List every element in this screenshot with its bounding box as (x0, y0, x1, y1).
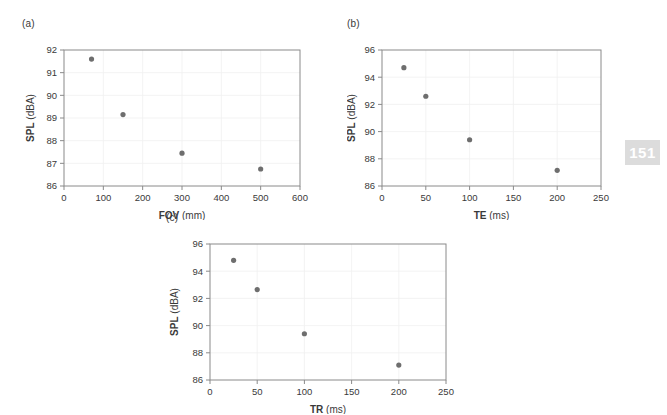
y-tick-label: 87 (46, 158, 57, 169)
x-axis-title-unit: (mm) (179, 210, 205, 220)
gridlines (382, 50, 601, 186)
data-point (467, 137, 472, 142)
y-tick-label: 91 (46, 67, 57, 78)
x-axis-title: TE (ms) (474, 210, 510, 220)
data-point (231, 258, 236, 263)
x-tick-label: 300 (174, 192, 190, 203)
x-tick-label: 500 (253, 192, 269, 203)
y-tick-label: 94 (364, 72, 375, 83)
figure-container: (a) 010020030040050060086878889909192FOV… (0, 0, 667, 415)
y-axis-title: SPL (dBA) (25, 94, 36, 142)
x-tick-label: 100 (95, 192, 111, 203)
x-tick-label: 600 (292, 192, 308, 203)
data-point (401, 65, 406, 70)
x-axis: 0100200300400500600 (61, 186, 308, 203)
y-axis-title-unit: (dBA) (347, 94, 357, 122)
y-axis: 86878889909192 (46, 44, 64, 191)
y-tick-label: 96 (364, 44, 375, 55)
x-tick-label: 50 (252, 386, 263, 397)
scatter-plot-b: 050100150200250868890929496TE (ms)SPL (d… (347, 28, 623, 220)
y-tick-label: 94 (192, 266, 203, 277)
data-point (89, 56, 94, 61)
x-tick-label: 100 (296, 386, 312, 397)
x-tick-label: 200 (135, 192, 151, 203)
page-number-badge: 151 (625, 140, 660, 165)
x-tick-label: 150 (505, 192, 521, 203)
y-axis-title-unit: (dBA) (25, 94, 36, 122)
x-axis-title-unit: (ms) (323, 404, 346, 414)
y-tick-label: 86 (46, 180, 57, 191)
plot-frame (382, 50, 601, 186)
x-tick-label: 150 (344, 386, 360, 397)
gridlines (210, 244, 446, 380)
x-tick-label: 400 (213, 192, 229, 203)
x-tick-label: 250 (593, 192, 609, 203)
y-axis: 868890929496 (192, 238, 210, 385)
x-axis: 050100150200250 (379, 186, 609, 203)
y-tick-label: 88 (192, 347, 203, 358)
y-tick-label: 92 (364, 99, 375, 110)
y-tick-label: 86 (364, 180, 375, 191)
y-axis-title-unit: (dBA) (169, 288, 180, 316)
y-tick-label: 88 (46, 135, 57, 146)
data-point (396, 362, 401, 367)
scatter-plot-c: 050100150200250868890929496TR (ms)SPL (d… (166, 222, 466, 414)
y-tick-label: 89 (46, 112, 57, 123)
y-tick-label: 90 (192, 320, 203, 331)
data-series (231, 258, 401, 368)
x-tick-label: 250 (438, 386, 454, 397)
y-tick-label: 90 (46, 90, 57, 101)
y-tick-label: 92 (46, 44, 57, 55)
x-tick-label: 100 (462, 192, 478, 203)
data-point (120, 112, 125, 117)
x-tick-label: 50 (421, 192, 432, 203)
x-axis-title: TR (ms) (310, 404, 346, 414)
y-axis: 868890929496 (364, 44, 382, 191)
x-tick-label: 200 (549, 192, 565, 203)
x-tick-label: 0 (61, 192, 66, 203)
gridlines (64, 50, 300, 186)
plot-frame (210, 244, 446, 380)
data-series (401, 65, 560, 173)
scatter-plot-a: 010020030040050060086878889909192FOV (mm… (22, 28, 322, 220)
data-series (89, 56, 263, 171)
y-tick-label: 88 (364, 153, 375, 164)
y-axis-title-term: SPL (347, 122, 357, 141)
x-tick-label: 200 (391, 386, 407, 397)
data-point (555, 168, 560, 173)
y-tick-label: 96 (192, 238, 203, 249)
x-axis: 050100150200250 (207, 380, 454, 397)
x-axis-title-unit: (ms) (487, 210, 510, 220)
data-point (423, 94, 428, 99)
y-axis-title-term: SPL (25, 122, 36, 141)
data-point (302, 331, 307, 336)
data-point (258, 166, 263, 171)
y-tick-label: 86 (192, 374, 203, 385)
x-tick-label: 0 (207, 386, 212, 397)
y-tick-label: 92 (192, 293, 203, 304)
y-tick-label: 90 (364, 126, 375, 137)
data-point (255, 287, 260, 292)
data-point (179, 151, 184, 156)
y-axis-title: SPL (dBA) (347, 94, 357, 142)
y-axis-title-term: SPL (169, 316, 180, 335)
x-axis-title-term: TR (310, 404, 324, 414)
y-axis-title: SPL (dBA) (169, 288, 180, 336)
x-axis-title-term: TE (474, 210, 487, 220)
page-number-text: 151 (629, 144, 656, 161)
x-tick-label: 0 (379, 192, 384, 203)
